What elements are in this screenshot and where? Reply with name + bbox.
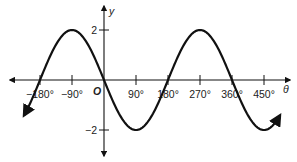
- y-axis-label: y: [108, 5, 115, 17]
- x-tick-label: −180°: [26, 88, 54, 100]
- x-axis-label: θ: [283, 83, 289, 95]
- origin-label: O: [93, 85, 101, 97]
- y-tick-label: −2: [85, 124, 97, 136]
- x-tick-label: −90°: [61, 88, 83, 100]
- x-tick-label: 270°: [189, 88, 211, 100]
- x-tick-label: 90°: [128, 88, 144, 100]
- x-tick-label: 450°: [253, 88, 275, 100]
- sine-graph: −180°−90°90°180°270°360°450° 2−2 O y θ: [0, 0, 297, 162]
- y-tick-label: 2: [91, 24, 97, 36]
- x-ticks: −180°−90°90°180°270°360°450°: [26, 75, 275, 100]
